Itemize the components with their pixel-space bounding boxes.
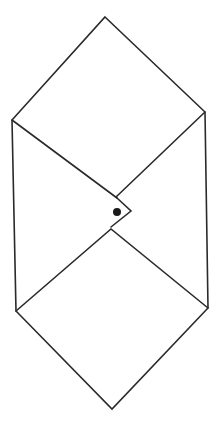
lower-diamond-edge	[16, 229, 208, 311]
clasp-dot	[113, 208, 121, 216]
outer-hexagon-outline	[12, 17, 208, 409]
envelope-drawing	[0, 0, 223, 435]
upper-flap-right-edge	[116, 112, 205, 197]
diagram-canvas: Line drawing of an envelope-like hexagon…	[0, 0, 223, 435]
upper-flap-left-edge	[12, 120, 117, 198]
